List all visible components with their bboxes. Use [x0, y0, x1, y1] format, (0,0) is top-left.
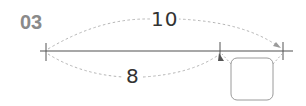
- answer-box[interactable]: [231, 58, 273, 100]
- problem-number: 03: [20, 11, 42, 34]
- arrowhead-icon: [218, 53, 224, 61]
- box-connector-left: [222, 54, 231, 64]
- arrowhead-icon: [273, 42, 281, 48]
- number-line-diagram: 03 10 8: [0, 0, 306, 106]
- total-length-label: 10: [150, 9, 179, 29]
- box-connector-right: [273, 54, 282, 64]
- segment-length-label: 8: [125, 66, 140, 86]
